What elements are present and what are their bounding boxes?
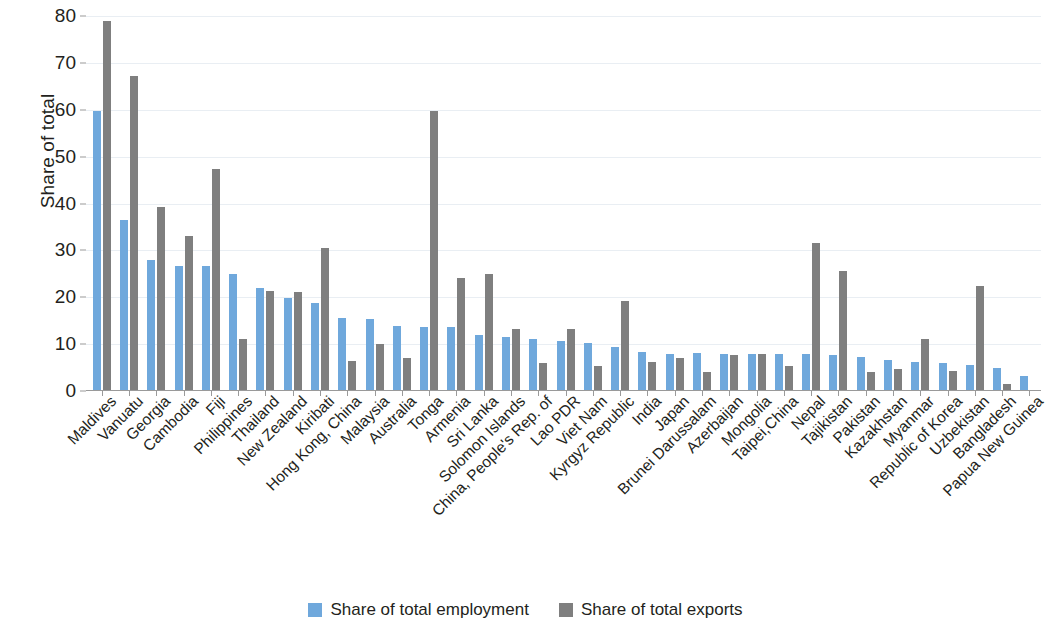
bar-group xyxy=(200,16,222,391)
legend-item[interactable]: Share of total employment xyxy=(308,600,528,620)
bar-employment xyxy=(120,220,128,391)
y-axis-tick-label: 50 xyxy=(30,146,76,168)
bar-employment xyxy=(229,274,237,391)
bar-group xyxy=(527,16,549,391)
bar-exports xyxy=(103,21,111,391)
legend-swatch-employment xyxy=(308,603,322,617)
bar-group xyxy=(145,16,167,391)
bar-group xyxy=(609,16,631,391)
bar-group xyxy=(254,16,276,391)
bar-exports xyxy=(621,301,629,391)
bar-group xyxy=(118,16,140,391)
bar-exports xyxy=(812,243,820,391)
bar-group xyxy=(773,16,795,391)
bar-group xyxy=(855,16,877,391)
bar-exports xyxy=(266,291,274,391)
bar-group xyxy=(500,16,522,391)
bar-exports xyxy=(730,355,738,391)
bar-exports xyxy=(157,207,165,391)
bar-employment xyxy=(829,355,837,391)
bar-employment xyxy=(502,337,510,391)
bar-employment xyxy=(475,335,483,391)
y-axis-tick-label: 70 xyxy=(30,52,76,74)
chart-legend: Share of total employmentShare of total … xyxy=(0,600,1051,620)
legend-label: Share of total exports xyxy=(581,600,743,620)
legend-label: Share of total employment xyxy=(330,600,528,620)
bar-employment xyxy=(584,343,592,391)
bar-exports xyxy=(648,362,656,391)
bar-exports xyxy=(185,236,193,391)
bar-group xyxy=(909,16,931,391)
bar-exports xyxy=(867,372,875,391)
y-axis-tick-label: 10 xyxy=(30,333,76,355)
bar-group xyxy=(964,16,986,391)
bar-group xyxy=(282,16,304,391)
bar-employment xyxy=(284,298,292,391)
bar-employment xyxy=(666,354,674,392)
bar-employment xyxy=(420,327,428,391)
bar-exports xyxy=(539,363,547,391)
bar-group xyxy=(582,16,604,391)
bar-exports xyxy=(239,339,247,391)
bar-employment xyxy=(557,341,565,391)
bar-chart: Share of total 01020304050607080 Maldive… xyxy=(0,0,1051,624)
bar-employment xyxy=(393,326,401,391)
bar-group xyxy=(555,16,577,391)
y-axis-tick-label: 80 xyxy=(30,5,76,27)
bar-employment xyxy=(884,360,892,391)
bar-group xyxy=(173,16,195,391)
bar-employment xyxy=(857,357,865,391)
y-axis-tick-label: 60 xyxy=(30,99,76,121)
bar-exports xyxy=(785,366,793,391)
bar-exports xyxy=(758,354,766,392)
bar-exports xyxy=(294,292,302,391)
bar-group xyxy=(800,16,822,391)
bar-exports xyxy=(430,111,438,391)
bar-employment xyxy=(748,354,756,392)
bar-exports xyxy=(676,358,684,391)
y-axis-tick-label: 40 xyxy=(30,193,76,215)
bar-exports xyxy=(457,278,465,391)
legend-swatch-exports xyxy=(559,603,573,617)
bar-exports xyxy=(130,76,138,391)
bar-group xyxy=(445,16,467,391)
bar-employment xyxy=(366,319,374,391)
bar-exports xyxy=(921,339,929,391)
bar-group xyxy=(309,16,331,391)
bar-employment xyxy=(147,260,155,391)
bar-group xyxy=(336,16,358,391)
bar-group xyxy=(882,16,904,391)
bar-group xyxy=(718,16,740,391)
bar-employment xyxy=(911,362,919,391)
bar-group xyxy=(391,16,413,391)
bar-exports xyxy=(348,361,356,391)
bar-exports xyxy=(703,372,711,391)
plot-area xyxy=(86,16,1041,391)
bar-exports xyxy=(485,274,493,391)
x-axis-line xyxy=(86,390,1041,392)
legend-item[interactable]: Share of total exports xyxy=(559,600,743,620)
bar-employment xyxy=(802,354,810,391)
bar-employment xyxy=(93,111,101,391)
bar-employment xyxy=(720,354,728,391)
bar-employment xyxy=(775,354,783,392)
bar-employment xyxy=(993,368,1001,391)
bar-group xyxy=(418,16,440,391)
bar-group xyxy=(473,16,495,391)
bar-employment xyxy=(338,318,346,391)
bar-exports xyxy=(976,286,984,391)
bar-group xyxy=(691,16,713,391)
bar-exports xyxy=(212,169,220,391)
bar-exports xyxy=(321,248,329,391)
x-axis-label-group: MaldivesVanuatuGeorgiaCambodiaFijiPhilip… xyxy=(86,393,1041,553)
bar-group xyxy=(664,16,686,391)
bar-employment xyxy=(966,365,974,391)
bar-exports xyxy=(594,366,602,391)
y-axis-tick-label: 30 xyxy=(30,239,76,261)
bar-employment xyxy=(447,327,455,391)
bar-group xyxy=(91,16,113,391)
bar-exports xyxy=(403,358,411,391)
bar-employment xyxy=(611,347,619,391)
bar-exports xyxy=(512,329,520,391)
bar-employment xyxy=(529,339,537,392)
